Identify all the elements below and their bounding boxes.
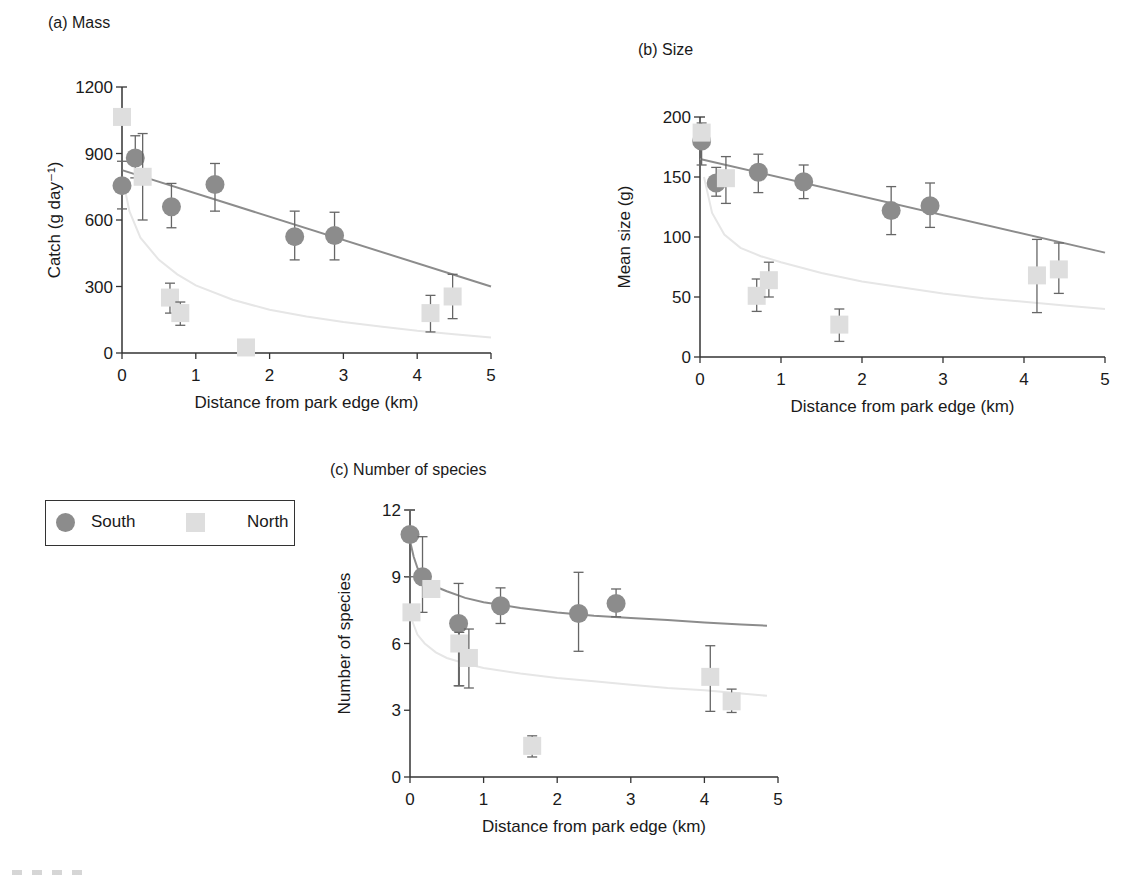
y-tick-label: 100 [663,228,691,247]
x-tick-label: 0 [405,790,414,809]
y-tick-label: 6 [392,635,401,654]
south-data-point [285,227,304,246]
legend-label-south: South [91,512,135,532]
x-tick-label: 0 [695,370,704,389]
figure: (a) Mass03006009001200012345Distance fro… [0,0,1139,875]
south-data-point [113,176,132,195]
panel-title: (c) Number of species [330,461,487,478]
north-data-point [748,287,766,305]
x-tick-label: 1 [479,790,488,809]
legend-label-north: North [247,512,289,532]
north-data-point [523,737,541,755]
y-tick-label: 200 [663,108,691,127]
north-data-point [701,668,719,686]
panel-mass: (a) Mass03006009001200012345Distance fro… [45,14,496,412]
north-data-point [717,169,735,187]
x-tick-label: 1 [776,370,785,389]
x-tick-label: 1 [191,366,200,385]
north-data-point [171,304,189,322]
x-tick-label: 2 [857,370,866,389]
south-data-point [921,196,940,215]
north-data-point [237,338,255,356]
x-tick-label: 2 [265,366,274,385]
north-data-point [760,271,778,289]
north-data-point [460,649,478,667]
x-tick-label: 3 [339,366,348,385]
south-circle-marker-icon [56,513,75,532]
south-data-point [205,175,224,194]
north-data-point [1028,266,1046,284]
x-tick-label: 4 [1019,370,1028,389]
north-square-marker-icon [186,513,205,532]
north-data-point [723,692,741,710]
y-tick-label: 0 [682,348,691,367]
y-tick-label: 300 [85,278,113,297]
south-data-point [162,197,181,216]
x-tick-label: 4 [412,366,421,385]
y-tick-label: 1200 [75,78,113,97]
south-data-point [569,604,588,623]
y-tick-label: 600 [85,211,113,230]
x-tick-label: 5 [486,366,495,385]
north-data-point [421,304,439,322]
y-tick-label: 50 [672,288,691,307]
y-tick-label: 3 [392,701,401,720]
x-tick-label: 3 [626,790,635,809]
x-tick-label: 5 [1100,370,1109,389]
fit-line-south [122,170,491,286]
x-tick-label: 4 [700,790,709,809]
panel-number-of-species: (c) Number of species036912012345Distanc… [330,461,783,836]
y-axis-label: Mean size (g) [615,186,634,289]
south-data-point [749,163,768,182]
north-data-point [113,108,131,126]
y-tick-label: 9 [392,568,401,587]
south-data-point [491,596,510,615]
north-data-point [134,168,152,186]
south-data-point [882,201,901,220]
x-tick-label: 2 [552,790,561,809]
panel-title: (a) Mass [48,14,110,31]
y-axis-label: Number of species [335,573,354,715]
y-axis-label: Catch (g day⁻¹) [45,162,64,279]
cropped-caption-fragment [12,870,82,875]
south-data-point [401,525,420,544]
north-data-point [422,580,440,598]
legend-item-north: North [186,512,289,532]
south-data-point [449,614,468,633]
y-tick-label: 900 [85,145,113,164]
south-data-point [126,148,145,167]
x-axis-label: Distance from park edge (km) [195,393,419,412]
x-tick-label: 5 [773,790,782,809]
y-tick-label: 12 [382,501,401,520]
north-data-point [830,316,848,334]
north-data-point [693,124,711,142]
north-data-point [402,603,420,621]
y-tick-label: 0 [392,768,401,787]
north-data-point [161,289,179,307]
south-data-point [607,594,626,613]
north-data-point [1050,260,1068,278]
x-axis-label: Distance from park edge (km) [482,817,706,836]
north-data-point [444,287,462,305]
x-axis-label: Distance from park edge (km) [791,397,1015,416]
x-tick-label: 3 [938,370,947,389]
y-tick-label: 0 [104,344,113,363]
panel-size: (b) Size050100150200012345Distance from … [615,41,1110,416]
south-data-point [794,172,813,191]
legend-item-south: South [56,512,135,532]
y-tick-label: 150 [663,168,691,187]
south-data-point [325,226,344,245]
legend: South North [45,500,295,546]
panel-title: (b) Size [638,41,693,58]
x-tick-label: 0 [117,366,126,385]
